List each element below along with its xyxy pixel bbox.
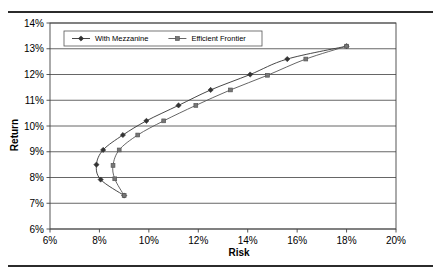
- data-point-marker: [176, 37, 180, 41]
- y-tick-label: 6%: [30, 224, 45, 235]
- legend-label: With Mezzanine: [95, 34, 148, 43]
- data-point-marker: [162, 119, 166, 123]
- risk-return-chart: 6%8%10%12%14%16%18%20% 6%7%8%9%10%11%12%…: [0, 16, 441, 262]
- x-tick-label: 6%: [43, 235, 58, 246]
- data-point-marker: [248, 72, 253, 77]
- figure-page: 6%8%10%12%14%16%18%20% 6%7%8%9%10%11%12%…: [0, 0, 441, 278]
- data-point-marker: [194, 104, 198, 108]
- x-tick-label: 16%: [287, 235, 307, 246]
- y-tick-label: 11%: [25, 95, 44, 106]
- data-point-marker: [345, 44, 349, 48]
- data-series-layer: [94, 44, 349, 199]
- series-with-mezzanine: [94, 44, 349, 199]
- chart-svg: 6%8%10%12%14%16%18%20% 6%7%8%9%10%11%12%…: [0, 16, 441, 262]
- y-tick-label: 14%: [24, 18, 44, 29]
- x-tick-label: 18%: [337, 235, 357, 246]
- x-axis-ticks: 6%8%10%12%14%16%18%20%: [43, 229, 406, 246]
- data-point-marker: [208, 87, 213, 92]
- x-tick-label: 12%: [188, 235, 208, 246]
- y-tick-label: 9%: [30, 146, 45, 157]
- x-axis-label: Risk: [228, 247, 250, 258]
- x-tick-label: 20%: [386, 235, 406, 246]
- data-point-marker: [285, 56, 290, 61]
- data-point-marker: [304, 57, 308, 61]
- data-point-marker: [111, 163, 115, 167]
- data-point-marker: [266, 73, 270, 77]
- x-tick-label: 8%: [92, 235, 107, 246]
- data-point-marker: [113, 177, 117, 181]
- grid-lines: [50, 23, 396, 229]
- data-point-marker: [94, 162, 99, 167]
- y-axis-label: Return: [9, 119, 20, 151]
- x-tick-label: 10%: [139, 235, 159, 246]
- chart-legend: With MezzanineEfficient Frontier: [64, 31, 262, 46]
- top-horizontal-rule: [8, 11, 433, 13]
- x-tick-label: 14%: [238, 235, 258, 246]
- y-tick-label: 12%: [24, 69, 44, 80]
- y-tick-label: 10%: [24, 121, 44, 132]
- data-point-marker: [136, 133, 140, 137]
- series-line: [96, 46, 346, 195]
- data-point-marker: [120, 132, 125, 137]
- bottom-horizontal-rule: [8, 265, 433, 267]
- data-point-marker: [117, 148, 121, 152]
- y-tick-label: 13%: [24, 43, 44, 54]
- y-tick-label: 7%: [30, 198, 45, 209]
- legend-label: Efficient Frontier: [191, 34, 246, 43]
- y-axis-ticks: 6%7%8%9%10%11%12%13%14%: [24, 18, 50, 235]
- y-tick-label: 8%: [30, 172, 45, 183]
- data-point-marker: [229, 88, 233, 92]
- data-point-marker: [144, 118, 149, 123]
- data-point-marker: [176, 103, 181, 108]
- data-point-marker: [122, 194, 126, 198]
